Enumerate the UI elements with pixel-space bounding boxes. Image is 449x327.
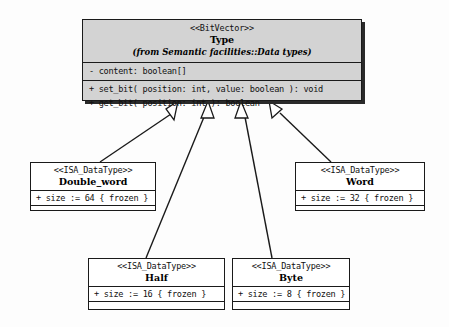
attributes-compartment: + size := 8 { frozen }: [233, 287, 349, 302]
class-package-reference: (from Semantic facilities::Data types): [85, 46, 359, 58]
operations-compartment: [31, 206, 155, 219]
class-stereotype: <<ISA_DataType>>: [235, 261, 347, 272]
class-box-word[interactable]: <<ISA_DataType>> Word + size := 32 { fro…: [295, 162, 425, 211]
operation-row: + get_bit( position: int ): boolean: [83, 96, 361, 110]
operation-row: + set_bit( position: int, value: boolean…: [83, 82, 361, 96]
attribute-row: + size := 16 { frozen }: [89, 287, 224, 301]
class-name: Double_word: [33, 176, 153, 188]
attribute-row: - content: boolean[]: [83, 64, 361, 78]
class-name: Word: [298, 176, 422, 188]
attributes-compartment: + size := 32 { frozen }: [296, 191, 424, 206]
class-header-word: <<ISA_DataType>> Word: [296, 163, 424, 191]
operations-compartment: [296, 206, 424, 219]
class-header-byte: <<ISA_DataType>> Byte: [233, 259, 349, 287]
class-name: Byte: [235, 272, 347, 284]
class-name: Half: [91, 272, 222, 284]
uml-class-diagram-canvas: <<BitVector>> Type (from Semantic facili…: [0, 0, 449, 327]
class-stereotype: <<BitVector>>: [85, 23, 359, 34]
class-header-half: <<ISA_DataType>> Half: [89, 259, 224, 287]
class-header-type: <<BitVector>> Type (from Semantic facili…: [83, 20, 361, 63]
class-box-byte[interactable]: <<ISA_DataType>> Byte + size := 8 { froz…: [232, 258, 350, 310]
class-header-double-word: <<ISA_DataType>> Double_word: [31, 163, 155, 191]
attributes-compartment: - content: boolean[]: [83, 63, 361, 81]
attributes-compartment: + size := 16 { frozen }: [89, 287, 224, 302]
attribute-row: + size := 32 { frozen }: [296, 191, 424, 205]
class-box-double-word[interactable]: <<ISA_DataType>> Double_word + size := 6…: [30, 162, 156, 211]
operations-compartment: [89, 302, 224, 315]
generalization-byte: [235, 101, 272, 258]
operations-compartment: [233, 302, 349, 315]
class-name: Type: [85, 34, 359, 46]
class-stereotype: <<ISA_DataType>>: [298, 165, 422, 176]
class-box-type[interactable]: <<BitVector>> Type (from Semantic facili…: [82, 19, 362, 101]
operations-compartment: + set_bit( position: int, value: boolean…: [83, 81, 361, 112]
attribute-row: + size := 8 { frozen }: [233, 287, 349, 301]
class-stereotype: <<ISA_DataType>>: [91, 261, 222, 272]
class-stereotype: <<ISA_DataType>>: [33, 165, 153, 176]
attributes-compartment: + size := 64 { frozen }: [31, 191, 155, 206]
attribute-row: + size := 64 { frozen }: [31, 191, 155, 205]
class-box-half[interactable]: <<ISA_DataType>> Half + size := 16 { fro…: [88, 258, 225, 310]
